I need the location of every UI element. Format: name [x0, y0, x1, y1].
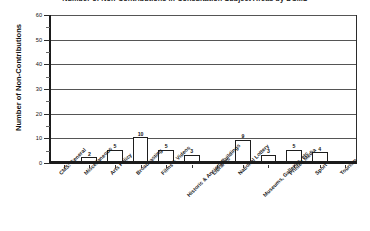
bar-series: 2510539354 — [51, 16, 356, 162]
bar-group[interactable]: 5 — [286, 16, 302, 162]
bar-value-label: 9 — [241, 133, 244, 139]
chart-title-clip: Number of Non-Contributions in Consultat… — [0, 0, 370, 7]
y-axis-tick-label: 60 — [24, 12, 42, 18]
y-axis-tick — [44, 138, 50, 139]
x-axis-category-labels: CMS: GeneralMiscellaneousArts PolicyBroa… — [0, 165, 370, 231]
bar[interactable] — [133, 137, 149, 162]
y-axis-minor-tick — [46, 126, 50, 127]
bar-value-label: 4 — [318, 146, 321, 152]
bar-value-label: 5 — [165, 143, 168, 149]
bar-value-label: 5 — [293, 143, 296, 149]
y-axis-tick-label: 0 — [24, 160, 42, 166]
y-axis-label: Number of Non-Contributions — [14, 8, 23, 148]
y-axis-minor-tick — [46, 52, 50, 53]
y-axis-minor-tick — [46, 151, 50, 152]
bar-group[interactable]: 5 — [107, 16, 123, 162]
bar[interactable] — [184, 155, 200, 162]
y-axis-tick — [44, 64, 50, 65]
bar-group[interactable] — [56, 16, 72, 162]
x-axis-tick — [268, 165, 269, 168]
y-axis-minor-tick — [46, 27, 50, 28]
bar-value-label: 5 — [114, 143, 117, 149]
bar-group[interactable] — [337, 16, 353, 162]
bar-group[interactable]: 10 — [133, 16, 149, 162]
y-axis-tick — [44, 163, 50, 164]
bar-group[interactable]: 5 — [158, 16, 174, 162]
bar-value-label: 10 — [138, 131, 144, 137]
y-axis-tick-label: 10 — [24, 135, 42, 141]
y-axis-tick — [44, 114, 50, 115]
bar-group[interactable]: 9 — [235, 16, 251, 162]
y-axis-tick-label: 30 — [24, 86, 42, 92]
y-axis-tick-label: 20 — [24, 111, 42, 117]
y-axis-tick — [44, 89, 50, 90]
chart-title: Number of Non-Contributions in Consultat… — [0, 0, 370, 3]
bar-value-label: 2 — [88, 151, 91, 157]
y-axis-minor-tick — [46, 77, 50, 78]
bar-group[interactable]: 4 — [312, 16, 328, 162]
bar-group[interactable]: 3 — [184, 16, 200, 162]
bar-group[interactable] — [209, 16, 225, 162]
bar-group[interactable]: 3 — [261, 16, 277, 162]
bar-chart: Number of Non-Contributions 2510539354 C… — [0, 7, 370, 231]
x-axis-tick — [192, 165, 193, 168]
bar-group[interactable]: 2 — [81, 16, 97, 162]
y-axis-tick-label: 40 — [24, 61, 42, 67]
y-axis-tick — [44, 15, 50, 16]
y-axis-tick — [44, 40, 50, 41]
y-axis-minor-tick — [46, 101, 50, 102]
y-axis-tick-label: 50 — [24, 37, 42, 43]
bar[interactable] — [261, 155, 277, 162]
